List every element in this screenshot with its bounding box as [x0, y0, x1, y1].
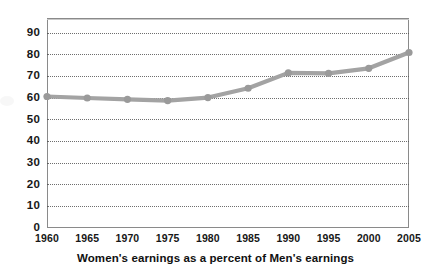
- gridline-80: [47, 54, 409, 55]
- chart-caption: Women's earnings as a percent of Men's e…: [0, 252, 431, 264]
- gridline-70: [47, 76, 409, 77]
- gridline-20: [47, 184, 409, 185]
- gridline-40: [47, 141, 409, 142]
- gridline-50: [47, 119, 409, 120]
- x-tick-label-1995: 1995: [309, 232, 349, 244]
- y-tick-label-60: 60: [6, 92, 40, 103]
- x-tick-label-1975: 1975: [148, 232, 188, 244]
- x-tick-label-1980: 1980: [188, 232, 228, 244]
- y-tick-label-10: 10: [6, 200, 40, 211]
- x-tick-label-1985: 1985: [228, 232, 268, 244]
- plot-top-rule: [47, 19, 409, 20]
- x-tick-label-2000: 2000: [349, 232, 389, 244]
- x-tick-label-1970: 1970: [107, 232, 147, 244]
- gridline-10: [47, 206, 409, 207]
- y-tick-label-20: 20: [6, 179, 40, 190]
- x-tick-label-1990: 1990: [268, 232, 308, 244]
- plot-area: [47, 18, 409, 228]
- y-tick-label-70: 70: [6, 70, 40, 81]
- x-tick-label-1960: 1960: [27, 232, 67, 244]
- y-tick-label-40: 40: [6, 135, 40, 146]
- y-tick-label-30: 30: [6, 157, 40, 168]
- gridline-90: [47, 33, 409, 34]
- y-tick-label-80: 80: [6, 49, 40, 60]
- chart-container: 9080706050403020100 19601965197019751980…: [0, 0, 431, 271]
- gridline-60: [47, 98, 409, 99]
- gridline-30: [47, 163, 409, 164]
- x-tick-label-1965: 1965: [67, 232, 107, 244]
- x-tick-label-2005: 2005: [389, 232, 429, 244]
- y-tick-label-90: 90: [6, 27, 40, 38]
- y-tick-label-50: 50: [6, 114, 40, 125]
